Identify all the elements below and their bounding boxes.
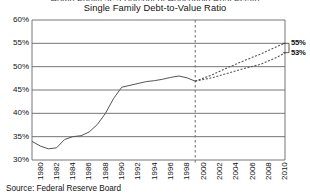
chart-container: Home Equity as a Percent of Household Re…: [0, 0, 310, 196]
x-axis-tick-label: 1984: [68, 162, 77, 180]
y-axis-tick-label: 50%: [1, 62, 29, 71]
y-axis-tick-label: 35%: [1, 132, 29, 141]
x-axis-tick-label: 1990: [117, 162, 126, 180]
x-axis-tick-label: 1992: [133, 162, 142, 180]
x-axis-tick-label: 1980: [36, 162, 45, 180]
y-axis-tick-label: 55%: [1, 38, 29, 47]
x-axis-tick-label: 2004: [231, 162, 240, 180]
x-axis-tick-label: 1994: [150, 162, 159, 180]
x-axis-tick-label: 2010: [280, 162, 289, 180]
endpoint-bracket: [283, 43, 289, 52]
x-axis-tick-label: 2006: [248, 162, 257, 180]
y-axis-tick-label: 30%: [1, 155, 29, 164]
endpoint-value-label: 55%: [291, 38, 306, 47]
x-axis-tick-label: 1982: [52, 162, 61, 180]
source-note: Source: Federal Reserve Board: [6, 184, 121, 193]
x-axis-tick-label: 1998: [182, 162, 191, 180]
x-axis-tick-label: 2000: [199, 162, 208, 180]
y-axis-tick-label: 40%: [1, 108, 29, 117]
x-axis-tick-label: 1996: [166, 162, 175, 180]
gridlines: [32, 20, 285, 160]
x-axis-tick-label: 2002: [215, 162, 224, 180]
endpoint-value-label: 53%: [291, 48, 306, 57]
data-series-group: [32, 43, 285, 148]
x-axis-tick-label: 1988: [101, 162, 110, 180]
x-axis-tick-label: 1986: [84, 162, 93, 180]
x-axis-tick-label: 2008: [264, 162, 273, 180]
y-axis-tick-label: 45%: [1, 85, 29, 94]
y-axis-tick-label: 60%: [1, 15, 29, 24]
